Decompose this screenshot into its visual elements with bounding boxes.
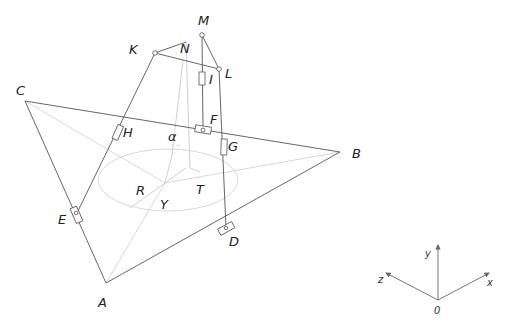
line-t <box>190 168 200 172</box>
edge-ml <box>202 35 219 69</box>
axis-label-z: z <box>377 274 384 285</box>
element-h <box>112 124 124 140</box>
axis-label-origin: 0 <box>434 305 440 316</box>
axis-z <box>386 273 438 300</box>
edge-ca <box>25 101 106 283</box>
label-l: L <box>225 66 232 81</box>
label-n: N <box>180 41 190 56</box>
joint-m <box>200 33 205 38</box>
elements <box>70 72 235 235</box>
axis-x <box>438 273 489 300</box>
line-a-center <box>106 183 165 283</box>
construction-lines <box>25 42 340 283</box>
label-t: T <box>196 182 205 197</box>
label-e: E <box>58 212 67 227</box>
base-ellipse <box>98 149 238 211</box>
edge-cb <box>25 101 340 152</box>
joint-l <box>217 67 222 72</box>
element-g <box>221 139 228 155</box>
slider-f <box>195 125 212 134</box>
axis-label-y: y <box>424 248 432 259</box>
label-y: Y <box>160 197 169 212</box>
label-k: K <box>129 42 139 57</box>
label-c: C <box>16 83 26 98</box>
label-f: F <box>210 112 218 127</box>
joint-k <box>153 51 158 56</box>
line-c-center <box>25 101 165 183</box>
label-g: G <box>228 139 238 154</box>
edge-ab <box>106 152 340 283</box>
label-alpha: α <box>168 129 177 144</box>
labels: M N K L I C H F G B E D A R T Y α <box>16 13 361 310</box>
label-m: M <box>198 13 209 28</box>
label-i: I <box>209 72 213 87</box>
line-b-center <box>165 152 340 183</box>
label-b: B <box>352 146 361 161</box>
structure-edges <box>25 35 340 283</box>
label-a: A <box>97 295 107 310</box>
diagram-canvas: M N K L I C H F G B E D A R T Y α y x z … <box>0 0 505 325</box>
label-h: H <box>123 125 133 140</box>
label-r: R <box>136 183 145 198</box>
slider-e <box>70 206 83 223</box>
coordinate-axes: y x z 0 <box>377 245 493 316</box>
element-i <box>199 72 205 85</box>
axis-label-x: x <box>486 277 493 288</box>
label-d: D <box>229 234 239 249</box>
